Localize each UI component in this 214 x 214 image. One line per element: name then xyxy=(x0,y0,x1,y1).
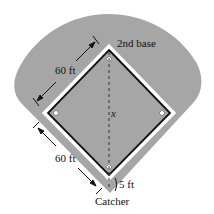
catcher-label: Catcher xyxy=(95,195,130,207)
second-base-label: 2nd base xyxy=(117,37,156,49)
baseball-diamond-diagram: 2nd base 60 ft x 60 ft 5 ft Catcher xyxy=(0,0,214,214)
upper-distance-label: 60 ft xyxy=(55,64,75,76)
diagonal-x-label: x xyxy=(110,107,116,119)
catcher-offset-label: 5 ft xyxy=(119,178,134,190)
lower-distance-label: 60 ft xyxy=(55,152,75,164)
